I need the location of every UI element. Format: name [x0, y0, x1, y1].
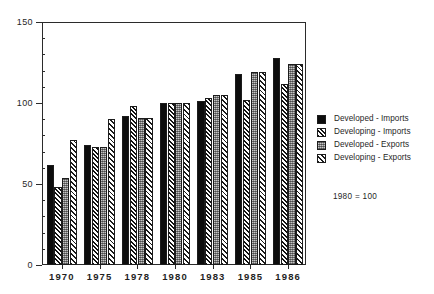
y-tick-label: 0 — [28, 261, 33, 270]
x-tick — [137, 265, 138, 269]
y-tick-label: 150 — [17, 18, 33, 27]
y-minor-tick — [42, 168, 45, 169]
legend: Developed - Imports Developing - Imports… — [317, 113, 433, 165]
legend-item-label: Developing - Imports — [334, 127, 411, 137]
y-minor-tick — [42, 216, 45, 217]
y-tick-label: 50 — [22, 180, 33, 189]
x-tick — [100, 265, 101, 269]
bar — [108, 119, 115, 265]
bar — [175, 103, 182, 265]
legend-swatch-icon — [317, 128, 326, 137]
bar — [138, 118, 145, 265]
y-minor-tick — [42, 249, 45, 250]
legend-item: Developing - Imports — [317, 126, 433, 138]
y-minor-tick — [42, 71, 45, 72]
y-major-tick — [36, 265, 42, 266]
y-minor-tick — [42, 38, 45, 39]
x-tick-label: 1986 — [275, 271, 301, 282]
bar — [62, 178, 69, 265]
x-tick-label: 1980 — [162, 271, 188, 282]
x-tick-label: 1985 — [238, 271, 264, 282]
y-minor-tick — [42, 87, 45, 88]
bars-layer — [42, 22, 306, 265]
legend-swatch-icon — [317, 115, 326, 124]
y-minor-tick — [42, 233, 45, 234]
bar — [47, 165, 54, 265]
x-tick — [288, 265, 289, 269]
bar — [235, 74, 242, 265]
y-minor-tick — [42, 200, 45, 201]
legend-item: Developed - Exports — [317, 139, 433, 151]
legend-item-label: Developed - Exports — [334, 140, 409, 150]
legend-item: Developed - Imports — [317, 113, 433, 125]
legend-swatch-icon — [317, 154, 326, 163]
x-tick — [250, 265, 251, 269]
bar — [84, 145, 91, 265]
y-minor-tick — [42, 119, 45, 120]
x-tick — [175, 265, 176, 269]
bar-chart: 050100150 Developed - Imports Developing… — [0, 0, 434, 294]
x-tick-label: 1970 — [49, 271, 75, 282]
x-tick — [213, 265, 214, 269]
bar — [122, 116, 129, 265]
x-tick-label: 1975 — [87, 271, 113, 282]
bar — [92, 147, 99, 265]
bar — [54, 187, 61, 265]
bar — [70, 140, 77, 265]
bar — [213, 95, 220, 265]
y-tick-label: 100 — [17, 99, 33, 108]
x-tick — [62, 265, 63, 269]
bar — [205, 98, 212, 265]
bar — [243, 100, 250, 265]
bar — [273, 58, 280, 265]
bar — [197, 101, 204, 265]
bar — [160, 103, 167, 265]
bar — [145, 118, 152, 265]
bar — [130, 106, 137, 265]
bar — [288, 64, 295, 265]
y-minor-tick — [42, 135, 45, 136]
y-minor-tick — [42, 54, 45, 55]
x-tick-label: 1978 — [125, 271, 151, 282]
legend-item-label: Developing - Exports — [334, 153, 411, 163]
legend-item: Developing - Exports — [317, 152, 433, 164]
x-tick-label: 1983 — [200, 271, 226, 282]
bar — [251, 72, 258, 265]
bar — [100, 147, 107, 265]
bar — [168, 103, 175, 265]
base-year-annotation: 1980 = 100 — [333, 192, 377, 202]
legend-item-label: Developed - Imports — [334, 114, 409, 124]
y-axis: 050100150 — [0, 0, 42, 294]
y-minor-tick — [42, 152, 45, 153]
bar — [183, 103, 190, 265]
bar — [221, 95, 228, 265]
legend-swatch-icon — [317, 141, 326, 150]
bar — [281, 84, 288, 265]
bar — [296, 64, 303, 265]
bar — [259, 72, 266, 265]
